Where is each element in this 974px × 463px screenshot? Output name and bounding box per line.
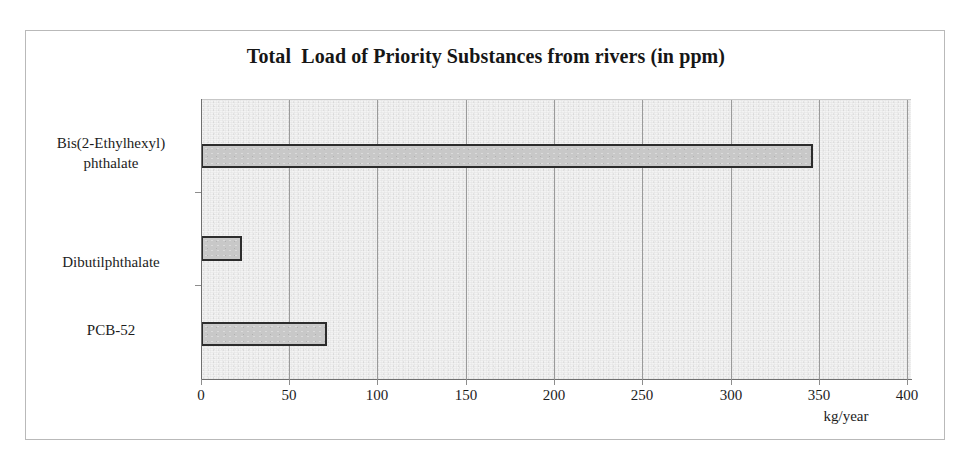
x-tick-350	[819, 379, 820, 385]
x-tick-label-50: 50	[259, 387, 319, 404]
plot-area	[201, 99, 911, 379]
x-tick-label-400: 400	[877, 387, 937, 404]
gridline-200	[554, 100, 555, 379]
category-label-line-1: Bis(2-Ethylhexyl)	[26, 134, 196, 154]
category-label-bis-2-ethylhexyl-phthalate: Bis(2-Ethylhexyl) phthalate	[26, 134, 196, 173]
chart-figure: Total Load of Priority Substances from r…	[25, 30, 945, 440]
category-label-line-2: phthalate	[26, 154, 196, 174]
x-axis-line	[201, 379, 912, 380]
gridline-350	[819, 100, 820, 379]
x-tick-400	[907, 379, 908, 385]
x-tick-label-0: 0	[171, 387, 231, 404]
x-tick-0	[201, 379, 202, 385]
category-label-pcb-52: PCB-52	[26, 321, 196, 341]
x-tick-250	[642, 379, 643, 385]
x-tick-label-250: 250	[612, 387, 672, 404]
category-label-line-1: PCB-52	[26, 321, 196, 341]
x-tick-150	[466, 379, 467, 385]
x-tick-50	[289, 379, 290, 385]
x-tick-100	[377, 379, 378, 385]
x-tick-label-300: 300	[701, 387, 761, 404]
y-tick-1	[195, 192, 201, 193]
bar-dibutilphthalate	[201, 236, 242, 261]
bar-pcb-52	[201, 322, 327, 346]
category-label-line-1: Dibutilphthalate	[26, 253, 196, 273]
gridline-150	[466, 100, 467, 379]
x-tick-label-350: 350	[789, 387, 849, 404]
category-label-dibutilphthalate: Dibutilphthalate	[26, 253, 196, 273]
x-tick-label-150: 150	[436, 387, 496, 404]
chart-title: Total Load of Priority Substances from r…	[26, 45, 946, 68]
gridline-250	[642, 100, 643, 379]
bar-bis-2-ethylhexyl-phthalate	[201, 144, 813, 168]
gridline-100	[377, 100, 378, 379]
y-tick-2	[195, 285, 201, 286]
x-tick-label-200: 200	[524, 387, 584, 404]
y-axis-line	[201, 99, 202, 380]
x-tick-label-100: 100	[347, 387, 407, 404]
x-axis-title: kg/year	[786, 408, 906, 425]
gridline-400	[907, 100, 908, 379]
gridline-300	[731, 100, 732, 379]
x-tick-200	[554, 379, 555, 385]
x-tick-300	[731, 379, 732, 385]
